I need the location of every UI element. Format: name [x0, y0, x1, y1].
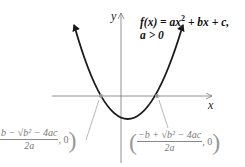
function-equation: f(x) = ax2 + bx + c, a > 0 [140, 12, 229, 42]
root-point-left [99, 94, 103, 98]
left-root-pointer [86, 100, 99, 140]
right-root-label: ( −b + √b² − 4ac 2a , 0 ) [129, 129, 220, 154]
x-axis-label: x [208, 98, 213, 113]
root-point-right [155, 94, 159, 98]
y-axis-label: y [111, 9, 116, 24]
left-root-label: b − √b² − 4ac 2a , 0 ) [0, 127, 76, 152]
right-root-pointer [159, 100, 168, 128]
